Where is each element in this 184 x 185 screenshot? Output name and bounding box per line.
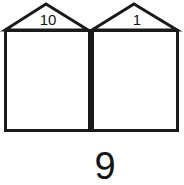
roof-right-label: 1 <box>133 11 141 28</box>
house-left[interactable]: 10 <box>5 4 90 131</box>
sum-label: 9 <box>94 145 115 185</box>
number-bond-figure: 10 1 9 <box>0 0 184 185</box>
box-right[interactable] <box>93 31 178 131</box>
house-right[interactable]: 1 <box>92 4 178 131</box>
roof-left-label: 10 <box>40 11 57 28</box>
box-left[interactable] <box>6 31 90 131</box>
place-value-diagram: 10 1 9 <box>0 0 184 185</box>
